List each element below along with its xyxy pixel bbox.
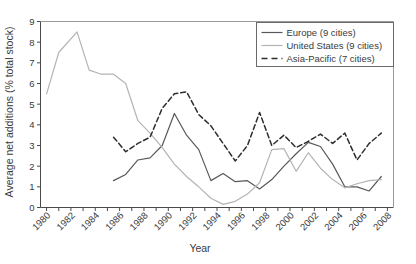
x-axis: 1980198219841986198819901992199419961998…	[30, 208, 394, 233]
y-tick-label: 9	[29, 16, 34, 27]
y-tick-label: 8	[29, 37, 34, 48]
y-tick-label: 6	[29, 78, 34, 89]
x-tick-label: 2002	[298, 210, 321, 233]
x-tick-label: 1984	[78, 210, 101, 233]
x-tick-label: 1986	[103, 210, 126, 233]
y-tick-label: 7	[29, 57, 34, 68]
series-line	[114, 92, 382, 161]
x-tick-label: 2006	[346, 210, 369, 233]
x-tick-label: 2000	[273, 210, 296, 233]
x-axis-title: Year	[189, 242, 211, 254]
x-tick-label: 2008	[371, 210, 394, 233]
x-tick-label: 1994	[200, 210, 223, 233]
x-tick-label: 1998	[249, 210, 272, 233]
legend-label: Asia-Pacific (7 cities)	[287, 53, 375, 64]
x-tick-label: 1988	[127, 210, 150, 233]
legend-label: United States (9 cities)	[287, 40, 383, 51]
line-chart: 0123456789 19801982198419861988199019921…	[0, 0, 416, 264]
x-tick-label: 2004	[322, 210, 345, 233]
y-tick-label: 2	[29, 161, 34, 172]
y-tick-label: 1	[29, 181, 34, 192]
y-axis: 0123456789	[29, 16, 40, 213]
x-tick-label: 1992	[176, 210, 199, 233]
x-tick-label: 1990	[151, 210, 174, 233]
series-line	[114, 113, 382, 191]
y-tick-label: 0	[29, 202, 34, 213]
y-tick-label: 5	[29, 99, 34, 110]
chart-legend: Europe (9 cities)United States (9 cities…	[257, 23, 394, 67]
y-tick-label: 4	[29, 119, 34, 130]
legend-label: Europe (9 cities)	[287, 27, 356, 38]
chart-container: 0123456789 19801982198419861988199019921…	[0, 0, 416, 264]
x-tick-label: 1980	[30, 210, 53, 233]
y-tick-label: 3	[29, 140, 34, 151]
x-tick-label: 1982	[54, 210, 77, 233]
x-tick-label: 1996	[225, 210, 248, 233]
y-axis-title: Average net additions (% total stock)	[3, 27, 15, 198]
